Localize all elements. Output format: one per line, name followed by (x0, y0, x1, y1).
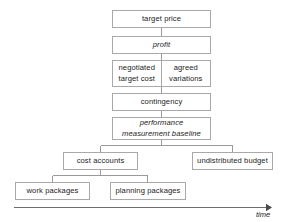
node-performance-measurement-baseline-label: performance measurement baseline (122, 118, 201, 138)
node-contingency[interactable]: contingency (112, 93, 211, 111)
time-axis-label-text: time (256, 210, 270, 219)
node-performance-measurement-baseline[interactable]: performance measurement baseline (112, 117, 211, 140)
node-negotiated-target-cost[interactable]: negotiated target cost (113, 61, 162, 86)
node-cost-accounts[interactable]: cost accounts (63, 152, 138, 170)
time-axis-label: time (256, 210, 270, 219)
node-agreed-variations[interactable]: agreed variations (162, 61, 211, 86)
node-contingency-label: contingency (141, 97, 183, 107)
node-work-packages[interactable]: work packages (15, 182, 90, 200)
node-cost-accounts-label: cost accounts (77, 156, 125, 166)
node-profit[interactable]: profit (112, 36, 211, 54)
node-negotiated-agreed-row: negotiated target cost agreed variations (112, 60, 211, 87)
node-work-packages-label: work packages (27, 186, 79, 196)
time-axis-arrow (14, 204, 272, 211)
diagram-canvas: target price profit negotiated target co… (0, 0, 293, 222)
node-agreed-variations-label: agreed variations (169, 63, 203, 83)
node-profit-label: profit (153, 40, 170, 50)
node-planning-packages-label: planning packages (115, 186, 180, 196)
node-planning-packages[interactable]: planning packages (110, 182, 186, 200)
node-target-price-label: target price (142, 14, 181, 24)
node-undistributed-budget-label: undistributed budget (197, 156, 268, 166)
node-negotiated-target-cost-label: negotiated target cost (118, 63, 155, 83)
node-undistributed-budget[interactable]: undistributed budget (192, 152, 273, 170)
node-target-price[interactable]: target price (112, 10, 211, 28)
